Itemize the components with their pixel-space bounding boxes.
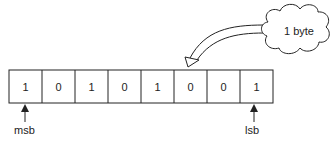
bit-cell-3: 1 <box>141 70 174 103</box>
bit-cell-5: 1 <box>75 70 108 103</box>
bit-cell-0: 1 <box>240 70 273 103</box>
bit-cell-1: 0 <box>207 70 240 103</box>
curved-arrow-icon <box>185 25 264 67</box>
bit-cell-4: 0 <box>108 70 141 103</box>
msb-arrow-icon <box>21 104 29 122</box>
bit-cell-2: 0 <box>174 70 207 103</box>
msb-label: msb <box>14 124 35 136</box>
lsb-arrow-icon <box>250 104 258 122</box>
lsb-label: lsb <box>245 124 259 136</box>
bit-cell-7: 1 <box>9 70 42 103</box>
bit-cell-6: 0 <box>42 70 75 103</box>
cloud-label: 1 byte <box>278 25 320 37</box>
